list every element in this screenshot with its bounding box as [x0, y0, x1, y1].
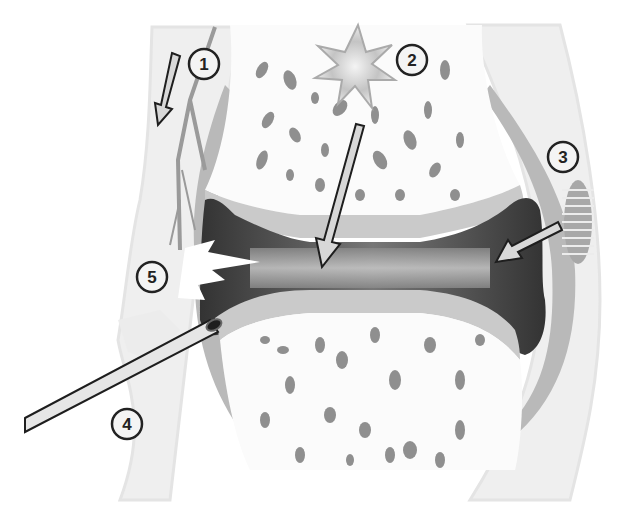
joint-diagram: 1 2 3 4 5	[0, 0, 631, 507]
callout-5-label: 5	[147, 268, 156, 287]
lower-bone	[215, 290, 522, 470]
callout-2: 2	[397, 45, 427, 75]
callout-5: 5	[137, 262, 167, 292]
callout-3: 3	[548, 142, 578, 172]
callout-1-label: 1	[199, 55, 208, 74]
callout-3-label: 3	[558, 148, 567, 167]
callout-1: 1	[189, 49, 219, 79]
callout-4: 4	[112, 409, 142, 439]
callout-2-label: 2	[407, 51, 416, 70]
callout-4-label: 4	[122, 415, 132, 434]
joint-space	[250, 248, 490, 288]
